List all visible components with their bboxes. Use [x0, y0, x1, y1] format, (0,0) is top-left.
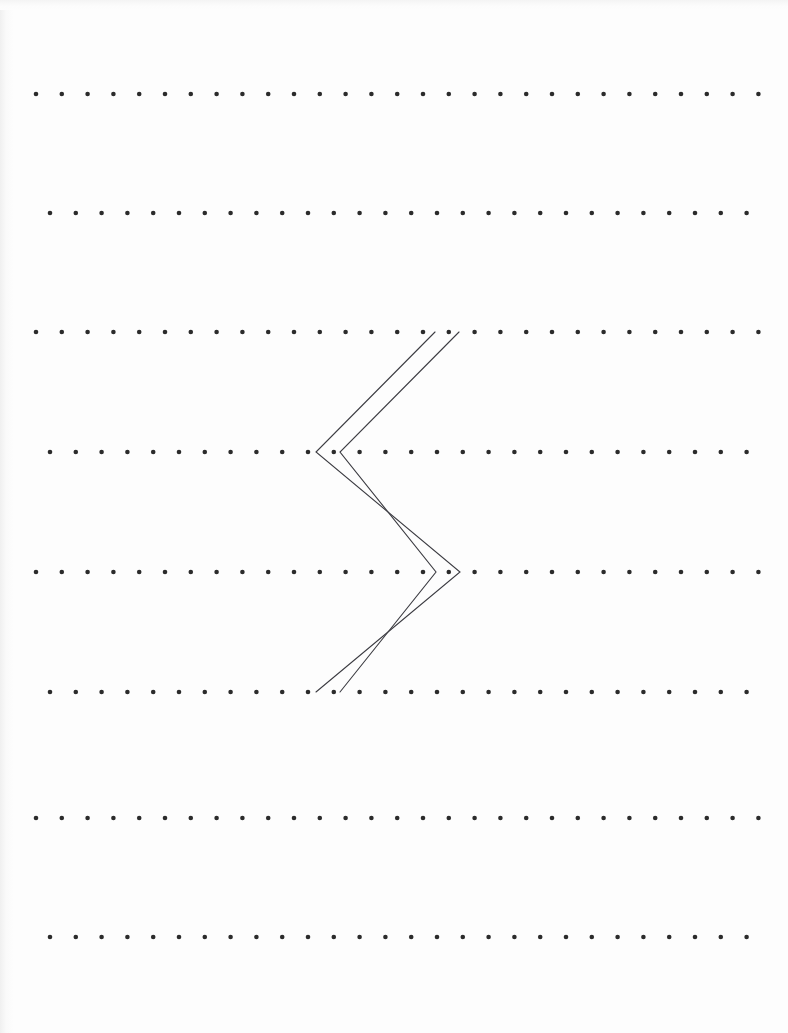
grid-dot [679, 92, 684, 97]
grid-dot [214, 570, 219, 575]
grid-dot [730, 92, 735, 97]
grid-dot [343, 92, 348, 97]
grid-dot [744, 211, 749, 216]
grid-dot [667, 935, 672, 940]
grid-dot [163, 570, 168, 575]
grid-dot [332, 935, 337, 940]
grid-dot [421, 570, 426, 575]
grid-dot [498, 330, 503, 335]
grid-dot [461, 935, 466, 940]
grid-dot [99, 690, 104, 695]
grid-dot [151, 935, 156, 940]
grid-dot [34, 816, 39, 821]
grid-dot [744, 690, 749, 695]
grid-dot [705, 92, 710, 97]
grid-dot [576, 570, 581, 575]
grid-dot [615, 935, 620, 940]
grid-dot [203, 211, 208, 216]
grid-dot [512, 690, 517, 695]
grid-dot [590, 690, 595, 695]
grid-dot [486, 211, 491, 216]
grid-dot [111, 816, 116, 821]
grid-dot [357, 450, 362, 455]
grid-dot [590, 211, 595, 216]
grid-dot [524, 570, 529, 575]
grid-dot [550, 92, 555, 97]
dot-row [48, 450, 749, 455]
grid-dot [343, 330, 348, 335]
grid-dot [550, 330, 555, 335]
grid-dot [74, 211, 79, 216]
grid-dot [601, 330, 606, 335]
grid-dot [203, 450, 208, 455]
grid-dot [306, 450, 311, 455]
grid-dot [512, 935, 517, 940]
grid-dot [254, 935, 259, 940]
inner-zigzag [340, 332, 459, 692]
grid-dot [99, 450, 104, 455]
grid-dot [214, 92, 219, 97]
grid-dot [472, 570, 477, 575]
dot-row [34, 816, 761, 821]
grid-dot [627, 570, 632, 575]
grid-dot [369, 816, 374, 821]
grid-dot [472, 330, 477, 335]
grid-dot [369, 570, 374, 575]
grid-dot [163, 92, 168, 97]
grid-dot [538, 450, 543, 455]
grid-dot [266, 92, 271, 97]
grid-dot [653, 570, 658, 575]
grid-dot [177, 690, 182, 695]
grid-dot [151, 211, 156, 216]
grid-dot [435, 211, 440, 216]
grid-dot [383, 690, 388, 695]
grid-dot [472, 816, 477, 821]
grid-dot [383, 211, 388, 216]
grid-dot [280, 211, 285, 216]
grid-dot [512, 450, 517, 455]
grid-dot [705, 816, 710, 821]
grid-dot [421, 330, 426, 335]
grid-dot [667, 211, 672, 216]
grid-dot [214, 330, 219, 335]
grid-dot [228, 450, 233, 455]
grid-dot [667, 690, 672, 695]
grid-dot [266, 330, 271, 335]
grid-dot [292, 570, 297, 575]
grid-dot [111, 330, 116, 335]
dot-row [34, 92, 761, 97]
grid-dot [538, 690, 543, 695]
grid-dot [550, 816, 555, 821]
grid-dot [137, 330, 142, 335]
grid-dot [498, 816, 503, 821]
grid-dot [461, 450, 466, 455]
grid-dot [421, 92, 426, 97]
grid-dot [292, 330, 297, 335]
grid-dot [34, 330, 39, 335]
grid-dot [60, 92, 65, 97]
grid-dot [409, 211, 414, 216]
grid-dot [667, 450, 672, 455]
grid-dot [306, 935, 311, 940]
grid-dot [34, 570, 39, 575]
grid-dot [576, 816, 581, 821]
grid-dot [151, 450, 156, 455]
grid-dot [74, 450, 79, 455]
grid-dot [627, 92, 632, 97]
grid-dot [524, 330, 529, 335]
grid-dot [524, 816, 529, 821]
grid-dot [538, 935, 543, 940]
grid-dot [693, 450, 698, 455]
grid-dot [719, 935, 724, 940]
dot-row [34, 570, 761, 575]
grid-dot [486, 450, 491, 455]
grid-dot [615, 690, 620, 695]
grid-dot [254, 211, 259, 216]
grid-dot [498, 570, 503, 575]
drawing-canvas [0, 0, 788, 1033]
grid-dot [125, 690, 130, 695]
grid-dot [512, 211, 517, 216]
double-chevron-zigzag [316, 332, 460, 692]
grid-dot [641, 935, 646, 940]
grid-dot [228, 211, 233, 216]
